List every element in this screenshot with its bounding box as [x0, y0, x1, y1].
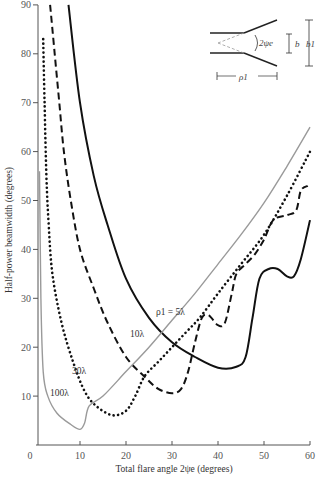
- x-tick-label: 20: [121, 450, 131, 461]
- x-tick-label: 60: [305, 450, 315, 461]
- x-tick-label: 50: [259, 450, 269, 461]
- label-10-lambda: 10λ: [130, 329, 145, 339]
- y-ticks: 102030405060708090: [21, 0, 38, 402]
- flare-angle-arc: [255, 35, 258, 51]
- label-100-lambda: 100λ: [50, 388, 69, 398]
- b1-label: b1: [306, 39, 315, 49]
- horn-wall-bottom-flare: [244, 53, 277, 66]
- y-tick-label: 20: [21, 342, 31, 353]
- y-tick-label: 70: [21, 97, 31, 108]
- y-tick-label: 80: [21, 48, 31, 59]
- y-tick-label: 50: [21, 195, 31, 206]
- x-tick-label: 30: [167, 450, 177, 461]
- x-tick-label: 10: [75, 450, 85, 461]
- curve-30-lambda: [43, 39, 310, 415]
- rho1-label: ρ1: [238, 72, 248, 82]
- apex-extension-top: [218, 33, 244, 43]
- label-rho-5-lambda: ρ1 = 5λ: [156, 307, 185, 317]
- apex-extension-bottom: [218, 43, 244, 53]
- horn-wall-top-flare: [244, 20, 277, 33]
- y-tick-label: 60: [21, 146, 31, 157]
- x-tick-label: 40: [213, 450, 223, 461]
- curve-100-lambda: [40, 127, 311, 429]
- y-tick-label: 10: [21, 391, 31, 402]
- y-tick-label: 90: [21, 0, 31, 10]
- y-axis-title: Half-power beamwidth (degrees): [4, 167, 15, 293]
- x-ticks: 0102030405060: [28, 441, 316, 461]
- y-tick-label: 40: [21, 244, 31, 255]
- beamwidth-chart: 102030405060708090 0102030405060 Total f…: [0, 0, 324, 482]
- label-30-lambda: 30λ: [72, 366, 87, 376]
- y-tick-label: 30: [21, 293, 31, 304]
- horn-geometry-inset: 2ψe b b1 ρ1: [210, 20, 315, 82]
- flare-angle-label: 2ψe: [259, 38, 273, 48]
- b-label: b: [295, 39, 300, 49]
- x-tick-label: 0: [28, 450, 33, 461]
- x-axis-title: Total flare angle 2ψe (degrees): [115, 464, 232, 475]
